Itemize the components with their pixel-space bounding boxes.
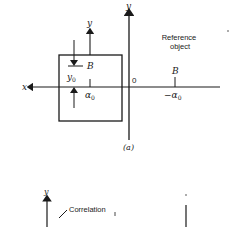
alpha-left-label: α0 (85, 90, 95, 101)
correlation-leader-line (59, 210, 67, 218)
point-b-right-label: B (171, 66, 179, 76)
origin-label: 0 (132, 76, 137, 85)
reference-object-label: Reference object (162, 33, 199, 51)
panel-a-caption: (a) (123, 143, 134, 152)
panel-a: y x 0 y B y0 α0 Reference object B −α0 (22, 1, 229, 152)
stray-dot (227, 30, 228, 31)
point-b-left-label: B (86, 61, 94, 71)
diagram-canvas: y x 0 y B y0 α0 Reference object B −α0 (0, 0, 246, 227)
panel-b: y Correlation (43, 187, 187, 227)
alpha-right-label: −α0 (164, 90, 182, 101)
panel-b-dot (185, 194, 186, 195)
correlation-label: Correlation (69, 205, 106, 214)
offset-y0-label: y0 (66, 72, 76, 83)
panel-b-y-axis-label: y (43, 187, 49, 196)
inner-y-axis-label: y (86, 18, 93, 28)
main-y-axis-label: y (125, 1, 132, 11)
x-axis-label: x (22, 82, 27, 92)
